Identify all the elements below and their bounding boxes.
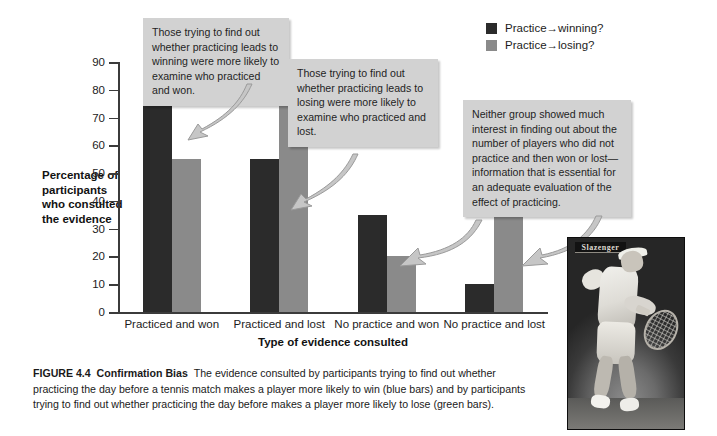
- caption-figure-number: FIGURE 4.4: [33, 367, 91, 379]
- y-axis-tick-label: 10: [92, 278, 105, 290]
- y-axis-tick: 30: [109, 229, 118, 231]
- legend-swatch-icon-losing: [486, 40, 497, 51]
- y-axis-title: Percentage of participants who consulted…: [42, 168, 124, 227]
- chart-legend: Practice→winning? Practice→losing?: [486, 22, 603, 56]
- photo-banner-text: Slazenger: [575, 242, 626, 253]
- photo-left-shoe: [590, 393, 610, 409]
- y-axis-tick-label: 90: [92, 56, 105, 68]
- caption-figure-title: Confirmation Bias: [97, 367, 188, 379]
- y-axis-tick: 80: [109, 90, 118, 92]
- y-axis-tick: 70: [109, 118, 118, 120]
- y-axis-line: [118, 62, 120, 312]
- figure-container: Percentage of participants who consulted…: [0, 0, 717, 436]
- y-axis-tick-label: 20: [92, 250, 105, 262]
- x-axis-tick-label: Practiced and won: [124, 318, 219, 330]
- x-axis-tick-label: No practice and lost: [443, 318, 545, 330]
- y-axis-tick-label: 30: [92, 223, 105, 235]
- bar-winning-3: [465, 284, 494, 312]
- bar-winning-0: [143, 104, 172, 312]
- x-axis-tick-label: Practiced and lost: [234, 318, 325, 330]
- y-axis-tick: 90: [109, 62, 118, 64]
- y-axis-tick-label: 80: [92, 84, 105, 96]
- x-axis-line: [118, 312, 548, 314]
- bar-winning-2: [358, 215, 387, 312]
- y-axis-tick: 20: [109, 256, 118, 258]
- y-axis-tick: 0: [109, 312, 118, 314]
- tennis-player-photo: Slazenger: [567, 237, 685, 430]
- bar-losing-0: [172, 159, 201, 312]
- callout-practiced-and-lost: Those trying to find out whether practic…: [288, 59, 438, 147]
- callout-practiced-and-won: Those trying to find out whether practic…: [143, 18, 289, 106]
- y-axis-tick: 40: [109, 201, 118, 203]
- y-axis-tick: 60: [109, 145, 118, 147]
- figure-caption: FIGURE 4.4 Confirmation Bias The evidenc…: [33, 366, 543, 413]
- x-axis-tick-label: No practice and won: [334, 318, 439, 330]
- legend-label-losing: Practice→losing?: [505, 39, 594, 51]
- y-axis-tick-label: 70: [92, 112, 105, 124]
- y-axis-tick-label: 40: [92, 195, 105, 207]
- bar-winning-1: [250, 159, 279, 312]
- legend-swatch-icon-winning: [486, 23, 497, 34]
- photo-right-leg: [617, 356, 638, 400]
- legend-label-winning: Practice→winning?: [505, 22, 603, 34]
- callout-no-practice: Neither group showed much interest in fi…: [463, 100, 631, 217]
- y-axis-tick: 50: [109, 173, 118, 175]
- y-axis-tick-label: 0: [99, 306, 105, 318]
- y-axis-tick-label: 60: [92, 139, 105, 151]
- legend-item-practice-losing: Practice→losing?: [486, 39, 603, 51]
- photo-left-leg: [592, 355, 614, 399]
- bar-losing-3: [494, 215, 523, 312]
- bar-losing-2: [387, 256, 416, 312]
- legend-item-practice-winning: Practice→winning?: [486, 22, 603, 34]
- x-axis-title: Type of evidence consulted: [258, 336, 408, 348]
- y-axis-tick: 10: [109, 284, 118, 286]
- y-axis-tick-label: 50: [92, 167, 105, 179]
